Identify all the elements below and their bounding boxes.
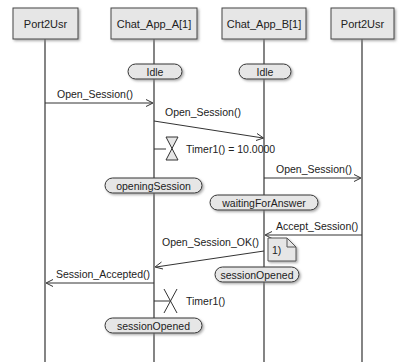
state-a-opening-session[interactable]: openingSession bbox=[105, 178, 202, 193]
message-label: Accept_Session() bbox=[276, 220, 358, 232]
state-b-idle[interactable]: Idle bbox=[239, 64, 291, 79]
lifeline-label: Chat_App_B[1] bbox=[227, 18, 302, 30]
timer-label: Timer1() bbox=[186, 295, 225, 307]
message-accept-session[interactable]: Accept_Session() bbox=[265, 220, 362, 239]
state-label: sessionOpened bbox=[117, 320, 190, 332]
state-label: sessionOpened bbox=[221, 269, 294, 281]
message-open-session-2[interactable]: Open_Session() bbox=[154, 106, 264, 141]
message-label: Open_Session() bbox=[276, 163, 352, 175]
message-label: Open_Session() bbox=[57, 88, 133, 100]
lifeline-header-app-a[interactable]: Chat_App_A[1] bbox=[111, 8, 197, 39]
arrowhead-icon bbox=[155, 262, 163, 269]
hourglass-icon bbox=[166, 137, 178, 160]
message-session-accepted[interactable]: Session_Accepted() bbox=[46, 268, 154, 287]
message-label: Session_Accepted() bbox=[56, 268, 150, 280]
message-open-session-1[interactable]: Open_Session() bbox=[45, 88, 153, 107]
state-label: waitingForAnswer bbox=[221, 197, 306, 209]
message-open-session-ok[interactable]: Open_Session_OK() bbox=[155, 236, 264, 269]
state-b-session-opened[interactable]: sessionOpened bbox=[215, 267, 299, 282]
timer-stop[interactable]: Timer1() bbox=[154, 289, 225, 313]
state-label: openingSession bbox=[116, 180, 191, 192]
lifeline-label: Port2Usr bbox=[341, 18, 385, 30]
lifeline-label: Port2Usr bbox=[24, 18, 68, 30]
lifeline-header-port-left[interactable]: Port2Usr bbox=[13, 8, 78, 39]
state-label: Idle bbox=[147, 66, 164, 78]
state-label: Idle bbox=[257, 66, 274, 78]
lifeline-header-app-b[interactable]: Chat_App_B[1] bbox=[222, 8, 306, 39]
lifeline-label: Chat_App_A[1] bbox=[117, 18, 192, 30]
message-open-session-3[interactable]: Open_Session() bbox=[264, 163, 361, 182]
timer-label: Timer1() = 10.0000 bbox=[186, 143, 275, 155]
state-b-waiting-for-answer[interactable]: waitingForAnswer bbox=[210, 195, 318, 210]
state-a-idle[interactable]: Idle bbox=[128, 64, 182, 79]
sequence-diagram: Port2Usr Chat_App_A[1] Chat_App_B[1] Por… bbox=[0, 0, 409, 362]
message-label: Open_Session_OK() bbox=[162, 236, 259, 248]
lifeline-header-port-right[interactable]: Port2Usr bbox=[331, 8, 394, 39]
message-label: Open_Session() bbox=[165, 106, 241, 118]
note-label: 1) bbox=[272, 244, 281, 256]
state-a-session-opened[interactable]: sessionOpened bbox=[105, 318, 202, 333]
note[interactable]: 1) bbox=[268, 238, 296, 261]
